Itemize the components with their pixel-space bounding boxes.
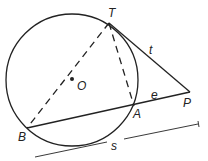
- secant-line-BP: [27, 92, 190, 128]
- dimension-line-s-right: [124, 124, 198, 139]
- center-dot-O: [70, 77, 74, 81]
- tangent-secant-diagram: T O t e A P B s: [0, 0, 208, 161]
- label-e: e: [151, 88, 158, 102]
- label-T: T: [108, 6, 117, 20]
- label-t: t: [149, 43, 153, 57]
- dimension-line-s-left: [35, 142, 107, 157]
- label-A: A: [132, 107, 141, 121]
- label-O: O: [77, 79, 86, 93]
- tangent-line-TP: [109, 23, 190, 92]
- label-P: P: [183, 96, 191, 110]
- dimension-tick-right: [198, 121, 199, 127]
- label-s: s: [111, 139, 117, 153]
- label-B: B: [18, 130, 26, 144]
